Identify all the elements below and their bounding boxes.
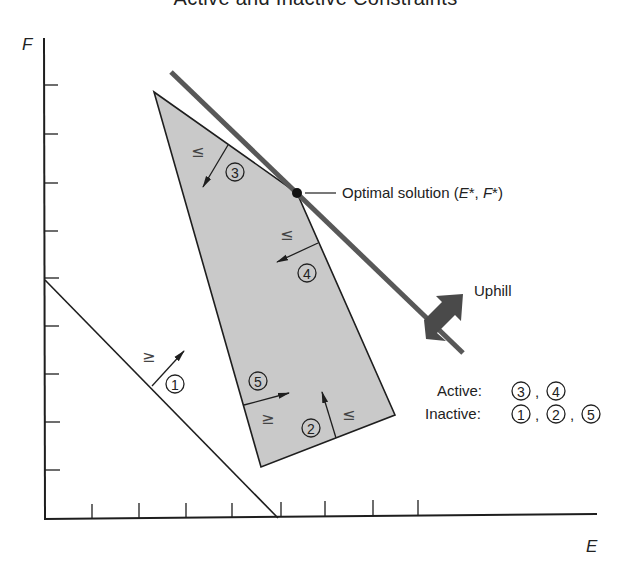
constraint-5-symbol: ≥ [261, 409, 274, 428]
constraint-2-id: 2 [307, 421, 315, 437]
legend-inactive-label: Inactive: [425, 405, 481, 422]
constraint-3-symbol: ≤ [191, 142, 204, 161]
svg-text:,: , [535, 383, 539, 400]
constraint-2-symbol: ≤ [342, 405, 355, 424]
x-axis [44, 514, 597, 519]
y-axis-ticks [44, 85, 60, 470]
legend-active-id-2: 4 [552, 384, 560, 400]
legend-inactive-id-1: 1 [517, 407, 525, 423]
constraint-3-id: 3 [231, 165, 239, 181]
svg-text:,: , [570, 406, 574, 423]
uphill-label: Uphill [474, 282, 512, 299]
legend-inactive-id-2: 2 [552, 407, 560, 423]
lp-diagram: F E Uphill Optimal solution (E*, F*) ≤ 3… [0, 0, 631, 562]
constraint-5-id: 5 [254, 374, 262, 390]
constraint-1-symbol: ≥ [142, 347, 155, 366]
constraint-1-id: 1 [171, 377, 179, 393]
constraint-4-symbol: ≤ [280, 225, 293, 244]
x-axis-label: E [586, 537, 598, 556]
svg-text:,: , [535, 406, 539, 423]
legend-inactive-id-3: 5 [587, 407, 595, 423]
y-axis-label: F [22, 35, 34, 54]
legend: Active: 3 , 4 Inactive: 1 , 2 , 5 [425, 382, 600, 423]
constraint-4-id: 4 [303, 266, 311, 282]
optimal-point [292, 188, 302, 198]
legend-active-id-1: 3 [517, 384, 525, 400]
legend-active-label: Active: [437, 382, 482, 399]
optimal-solution-label: Optimal solution (E*, F*) [342, 184, 503, 201]
